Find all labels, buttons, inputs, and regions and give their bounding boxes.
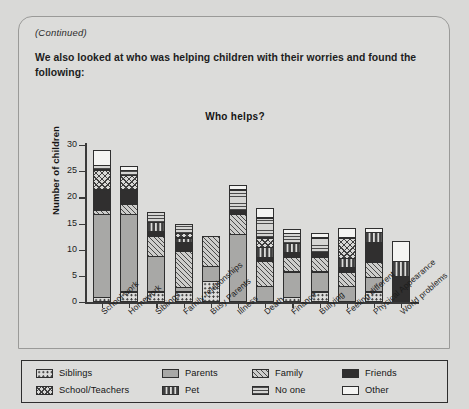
bar-segment-family	[256, 261, 274, 287]
legend-item-other: Other	[342, 385, 389, 395]
stacked-bar	[256, 208, 274, 302]
y-tick-label: 10	[55, 244, 77, 254]
legend-label: Parents	[185, 368, 218, 378]
y-tick-label: 15	[55, 218, 77, 228]
legend-item-school-teachers: School/Teachers	[36, 385, 129, 395]
legend-swatch-horizontal-lines	[252, 386, 269, 395]
y-tick	[79, 145, 85, 146]
bar-segment-parents	[311, 272, 329, 293]
legend-label: Friends	[365, 368, 397, 378]
legend-item-friends: Friends	[342, 368, 397, 378]
bar-segment-school-teachers	[338, 238, 356, 259]
content-card: (Continued) We also looked at who was he…	[18, 16, 450, 349]
legend-swatch-dashes	[162, 386, 179, 395]
bar-segment-family	[147, 236, 165, 257]
y-tick-label: 0	[55, 296, 77, 306]
legend-swatch-solid-black	[342, 369, 359, 378]
legend-label: Family	[275, 368, 303, 378]
stacked-bar	[283, 229, 301, 302]
chart-legend: SiblingsSchool/TeachersParentsPetFamilyN…	[21, 360, 448, 403]
legend-item-parents: Parents	[162, 368, 218, 378]
bar-segment-parents	[283, 272, 301, 298]
legend-swatch-dotted-circles	[36, 369, 53, 378]
chart-plot-area: Number of children 051015202530 School w…	[19, 17, 451, 350]
bar-segment-family	[338, 272, 356, 288]
bar-segment-family	[311, 257, 329, 273]
bar-segment-other	[93, 150, 111, 166]
y-tick-label: 25	[55, 165, 77, 175]
y-tick	[79, 250, 85, 251]
bar-segment-school-teachers	[120, 175, 138, 191]
legend-swatch-diagonal-hatch	[252, 369, 269, 378]
legend-item-family: Family	[252, 368, 303, 378]
legend-swatch-crosshatch	[36, 386, 53, 395]
bar-segment-family	[283, 257, 301, 273]
stacked-bar	[175, 224, 193, 302]
bar-segment-friends	[120, 190, 138, 206]
legend-label: Siblings	[59, 368, 92, 378]
legend-item-no-one: No one	[252, 385, 306, 395]
y-tick-label: 30	[55, 139, 77, 149]
legend-swatch-solid-grey	[162, 369, 179, 378]
bar-segment-family	[229, 214, 247, 235]
y-tick	[79, 171, 85, 172]
legend-label: School/Teachers	[59, 385, 129, 395]
bar-segment-parents	[93, 214, 111, 298]
stacked-bar	[93, 150, 111, 302]
legend-item-pet: Pet	[162, 385, 199, 395]
bar-segment-friends	[365, 242, 383, 263]
y-tick	[79, 302, 85, 303]
y-tick	[79, 276, 85, 277]
y-tick	[79, 197, 85, 198]
bar-segment-family	[365, 262, 383, 278]
y-tick-label: 20	[55, 191, 77, 201]
legend-swatch-white	[342, 386, 359, 395]
bar-segment-no-one	[256, 218, 274, 239]
legend-label: Other	[365, 385, 389, 395]
legend-label: No one	[275, 385, 306, 395]
bar-segment-family	[175, 251, 193, 288]
bar-segment-other	[392, 241, 410, 262]
legend-item-siblings: Siblings	[36, 368, 92, 378]
y-axis-line	[85, 143, 87, 303]
bar-segment-friends	[93, 190, 111, 211]
bar-segment-family	[202, 236, 220, 267]
y-tick	[79, 224, 85, 225]
bar-segment-no-one	[311, 238, 329, 254]
bar-segment-school-teachers	[93, 170, 111, 191]
bar-segment-no-one	[229, 190, 247, 211]
y-tick-label: 5	[55, 270, 77, 280]
legend-label: Pet	[185, 385, 199, 395]
